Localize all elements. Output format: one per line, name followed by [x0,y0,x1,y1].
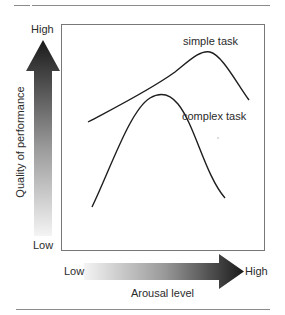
y-axis-arrow-icon [26,40,60,236]
y-axis-title: Quality of performance [14,86,26,197]
y-axis-low-label: Low [33,239,53,251]
plot-frame [62,25,265,251]
inverted-u-diagram [0,0,285,315]
print-speck [217,137,219,139]
x-axis-high-label: High [245,265,268,277]
x-axis-arrow-icon [84,254,244,289]
x-axis-low-label: Low [64,265,84,277]
simple-task-label: simple task [183,35,238,47]
x-axis-title: Arousal level [131,287,194,299]
y-axis-high-label: High [31,23,54,35]
complex-task-label: complex task [182,110,246,122]
